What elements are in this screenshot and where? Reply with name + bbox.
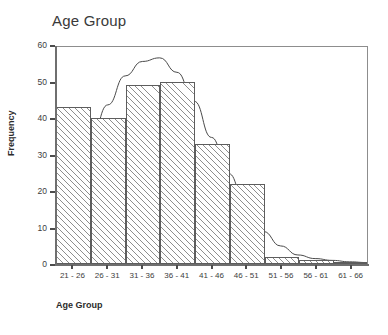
- x-axis-tick: [141, 265, 143, 269]
- x-axis-tick: [315, 265, 317, 269]
- x-axis-tick-label: 56 - 61: [303, 272, 328, 280]
- y-axis-tick-label: 60: [38, 41, 47, 50]
- x-axis-tick-label: 46 - 51: [234, 272, 259, 280]
- y-axis-title: Frequency: [6, 110, 16, 156]
- y-axis-tick: [50, 228, 55, 230]
- x-axis-tick-label: 31 - 36: [129, 272, 154, 280]
- y-axis-tick-label: 30: [38, 151, 47, 160]
- x-axis-tick: [280, 265, 282, 269]
- y-axis-tick: [50, 45, 55, 47]
- histogram-chart: Age Group 0102030405060 21 - 2626 - 3131…: [0, 0, 388, 335]
- x-axis-tick-label: 51 - 56: [269, 272, 294, 280]
- x-axis-tick-label: 36 - 41: [164, 272, 189, 280]
- y-axis-tick: [50, 264, 55, 266]
- y-axis-tick-label: 50: [38, 78, 47, 87]
- y-axis-tick-label: 10: [38, 224, 47, 233]
- y-axis-tick-label: 20: [38, 187, 47, 196]
- histogram-bar: [265, 257, 300, 264]
- histogram-bar: [91, 118, 126, 264]
- x-axis-tick: [350, 265, 352, 269]
- plot-area: [55, 46, 368, 265]
- x-axis-tick: [211, 265, 213, 269]
- x-axis-tick-label: 61 - 66: [338, 272, 363, 280]
- histogram-bar: [230, 184, 265, 264]
- y-axis-tick: [50, 191, 55, 193]
- histogram-bar: [195, 144, 230, 264]
- x-axis-tick: [176, 265, 178, 269]
- x-axis-tick: [71, 265, 73, 269]
- x-axis-tick-label: 26 - 31: [95, 272, 120, 280]
- y-axis-tick-label: 40: [38, 114, 47, 123]
- y-axis-line: [55, 46, 57, 266]
- x-axis-tick-label: 41 - 46: [199, 272, 224, 280]
- histogram-bar: [126, 85, 161, 264]
- plot-inner: [56, 47, 367, 264]
- histogram-bar: [160, 82, 195, 265]
- y-axis-tick: [50, 155, 55, 157]
- chart-title: Age Group: [52, 12, 126, 29]
- x-axis-tick: [245, 265, 247, 269]
- x-axis-title: Age Group: [56, 300, 103, 310]
- y-axis-tick: [50, 82, 55, 84]
- y-axis-tick: [50, 118, 55, 120]
- x-axis-tick-label: 21 - 26: [60, 272, 85, 280]
- y-axis-tick-label: 0: [42, 260, 47, 269]
- x-axis-tick: [106, 265, 108, 269]
- histogram-bar: [56, 107, 91, 264]
